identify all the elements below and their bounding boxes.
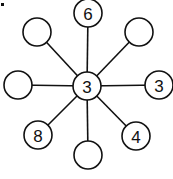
node-top-right [125,18,153,46]
node-bottom-circle [74,141,102,169]
node-right: 3 [145,71,173,99]
node-bottom-right: 4 [122,122,150,150]
node-center-label: 3 [82,78,91,97]
star-diagram: 63483 [0,0,173,179]
node-bottom-right-label: 4 [131,128,140,147]
node-center: 3 [73,72,101,100]
node-top-right-circle [125,18,153,46]
node-left-circle [4,71,32,99]
node-bottom [74,141,102,169]
corner-dot [1,3,4,6]
node-top-label: 6 [83,5,92,24]
node-top-left-circle [23,18,51,46]
node-bottom-left: 8 [24,121,52,149]
node-right-label: 3 [154,77,163,96]
node-top: 6 [74,0,102,27]
node-top-left [23,18,51,46]
node-bottom-left-label: 8 [33,127,42,146]
node-left [4,71,32,99]
